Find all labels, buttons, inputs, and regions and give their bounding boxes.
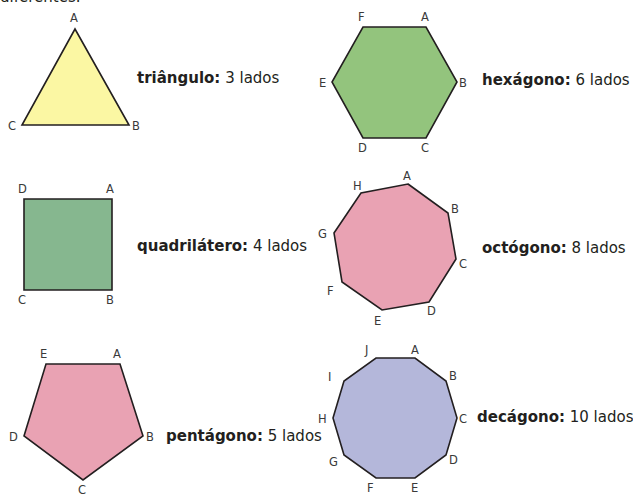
vertex-label: C (18, 293, 26, 307)
vertex-label: A (403, 169, 411, 183)
caption-octagon: octógono: 8 lados (482, 239, 626, 257)
sides-count: 5 lados (268, 427, 322, 445)
caption-triangle: triângulo: 3 lados (137, 69, 279, 87)
vertex-label: C (421, 141, 429, 155)
sides-count: 10 lados (570, 408, 633, 426)
caption-hexagon: hexágono: 6 lados (482, 71, 630, 89)
vertex-label: J (364, 343, 368, 357)
decagon-shape: JABCDEFGHI (318, 343, 467, 495)
octagon-polygon (334, 184, 456, 310)
shape-name: pentágono: (166, 427, 263, 445)
vertex-label: B (459, 76, 467, 90)
caption-square: quadrilátero: 4 lados (137, 237, 307, 255)
triangle-polygon (22, 29, 129, 125)
vertex-label: A (70, 11, 78, 25)
shape-name: octógono: (482, 239, 567, 257)
vertex-label: B (451, 202, 459, 216)
shape-name: decágono: (477, 408, 565, 426)
vertex-label: H (318, 412, 327, 426)
vertex-label: D (358, 141, 367, 155)
vertex-label: E (319, 76, 326, 90)
vertex-label: D (18, 182, 27, 196)
vertex-label: F (358, 10, 365, 24)
vertex-label: E (374, 314, 381, 328)
sides-count: 8 lados (571, 239, 625, 257)
decagon-polygon (333, 358, 457, 478)
triangle-shape: ABC (8, 11, 140, 133)
vertex-label: A (421, 10, 429, 24)
vertex-label: A (113, 347, 121, 361)
vertex-label: A (106, 182, 114, 196)
vertex-label: F (367, 481, 374, 495)
hexagon-shape: FABCDE (319, 10, 467, 155)
vertex-label: G (329, 455, 338, 469)
pentagon-polygon (24, 364, 143, 480)
sides-count: 4 lados (253, 237, 307, 255)
sides-count: 6 lados (575, 71, 629, 89)
vertex-label: F (327, 284, 334, 298)
vertex-label: E (411, 481, 418, 495)
vertex-label: D (449, 453, 458, 467)
pentagon-shape: EABCD (9, 347, 154, 495)
vertex-label: H (353, 179, 362, 193)
vertex-label: B (106, 293, 114, 307)
vertex-label: C (78, 483, 86, 495)
vertex-label: E (40, 347, 47, 361)
vertex-label: B (146, 430, 154, 444)
vertex-label: B (449, 369, 457, 383)
hexagon-polygon (332, 27, 457, 138)
square-shape: DACB (18, 182, 114, 307)
vertex-label: D (427, 304, 436, 318)
octagon-shape: ABCDEFGH (318, 169, 467, 328)
vertex-label: I (328, 370, 331, 384)
shape-name: hexágono: (482, 71, 571, 89)
shape-name: triângulo: (137, 69, 220, 87)
vertex-label: D (9, 430, 18, 444)
shape-name: quadrilátero: (137, 237, 248, 255)
caption-pentagon: pentágono: 5 lados (166, 427, 322, 445)
sides-count: 3 lados (225, 69, 279, 87)
vertex-label: G (318, 227, 327, 241)
vertex-label: B (132, 119, 140, 133)
caption-decagon: decágono: 10 lados (477, 408, 633, 426)
vertex-label: C (8, 119, 16, 133)
vertex-label: C (459, 412, 467, 426)
square-polygon (24, 199, 112, 290)
vertex-label: C (459, 257, 467, 271)
vertex-label: A (411, 343, 419, 357)
